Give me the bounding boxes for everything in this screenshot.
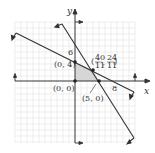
svg-text:(: ( <box>91 57 94 66</box>
x-axis-label: x <box>144 86 149 96</box>
svg-text:): ) <box>114 57 117 66</box>
label-0-4: (0, 4) <box>54 60 76 69</box>
feasible-region-graph: y x 6 8 (0, 4) (0, 0) (5, 0) ( 40 11 , 2… <box>0 0 155 153</box>
vertex-5-0 <box>97 79 101 83</box>
label-0-0: (0, 0) <box>53 84 75 93</box>
vertex-0-0 <box>73 79 77 83</box>
y-tick-6: 6 <box>68 48 73 57</box>
label-5-0: (5, 0) <box>82 94 104 103</box>
svg-text:,: , <box>103 58 106 67</box>
y-axis-label: y <box>66 6 73 16</box>
x-tick-8: 8 <box>112 84 117 93</box>
label-intersection: ( 40 11 , 24 11 ) <box>91 53 117 70</box>
